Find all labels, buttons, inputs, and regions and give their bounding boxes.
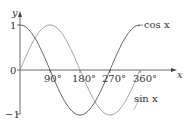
y-axis-label: y [11, 7, 18, 18]
x-tick-270: 270° [102, 73, 126, 84]
chart-svg: y x 1 0 −1 90° 180° 270° 360° cos x sin … [0, 0, 185, 124]
x-axis-label: x [177, 69, 183, 80]
sin-label: sin x [134, 93, 158, 104]
x-tick-360: 360° [133, 73, 157, 84]
x-tick-90: 90° [44, 73, 62, 84]
y-tick-0: 0 [10, 65, 16, 76]
x-tick-180: 180° [72, 73, 96, 84]
y-tick-1: 1 [10, 20, 16, 31]
cos-label: cos x [144, 19, 170, 30]
y-tick-neg1: −1 [5, 109, 20, 120]
trig-chart: y x 1 0 −1 90° 180° 270° 360° cos x sin … [0, 0, 185, 124]
y-axis-arrow-icon [18, 11, 22, 17]
